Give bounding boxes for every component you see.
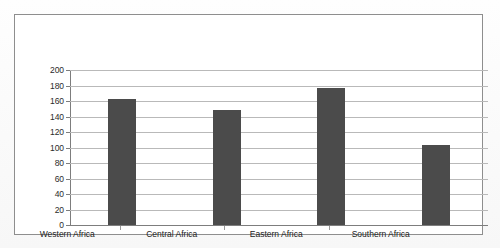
- y-axis-tick-label: 160: [50, 97, 64, 106]
- x-axis-category-divider: [329, 226, 330, 230]
- y-axis-tick-mark: [66, 179, 70, 180]
- x-axis-category-label: Southern Africa: [329, 230, 434, 239]
- y-axis-tick-mark: [66, 132, 70, 133]
- y-axis-tick-label: 100: [50, 143, 64, 152]
- y-axis-tick-mark: [66, 86, 70, 87]
- y-axis-tick-mark: [66, 148, 70, 149]
- y-axis-tick-label: 180: [50, 81, 64, 90]
- y-axis-tick-label-group: 200180160140120100806040200: [15, 70, 64, 225]
- y-axis-tick-mark: [66, 225, 70, 226]
- x-axis-category-divider: [120, 226, 121, 230]
- bar: [422, 145, 450, 225]
- y-axis-tick-label: 0: [59, 221, 64, 230]
- bar: [317, 88, 345, 225]
- x-axis-category-label: Western Africa: [15, 230, 120, 239]
- y-axis-tick-mark: [66, 70, 70, 71]
- x-axis-baseline: [70, 225, 488, 226]
- y-axis-tick-mark: [66, 117, 70, 118]
- y-axis-tick-mark: [66, 194, 70, 195]
- x-axis-category-label: Central Africa: [120, 230, 225, 239]
- y-axis-tick-label: 40: [55, 190, 64, 199]
- gridline: [70, 86, 488, 87]
- x-axis-category-divider: [224, 226, 225, 230]
- bar: [213, 110, 241, 225]
- y-axis-tick-label: 80: [55, 159, 64, 168]
- y-axis-tick-label: 120: [50, 128, 64, 137]
- x-axis-category-label: Eastern Africa: [224, 230, 329, 239]
- plot-area: [70, 70, 488, 225]
- y-axis-tick-mark: [66, 210, 70, 211]
- y-axis-tick-mark: [66, 101, 70, 102]
- gridline: [70, 70, 488, 71]
- y-axis-tick-label: 20: [55, 205, 64, 214]
- y-axis-tick-label: 140: [50, 112, 64, 121]
- chart-figure-frame: 200180160140120100806040200 Western Afri…: [14, 14, 483, 235]
- y-axis-tick-label: 200: [50, 66, 64, 75]
- y-axis-tick-mark: [66, 163, 70, 164]
- y-axis-tick-label: 60: [55, 174, 64, 183]
- bar: [108, 99, 136, 225]
